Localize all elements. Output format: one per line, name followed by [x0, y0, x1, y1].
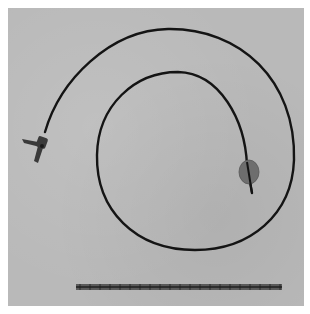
scale-ruler	[76, 284, 282, 290]
catheter-tubing	[45, 29, 294, 250]
catheter-hub	[22, 136, 48, 163]
catheter-illustration	[0, 0, 310, 314]
